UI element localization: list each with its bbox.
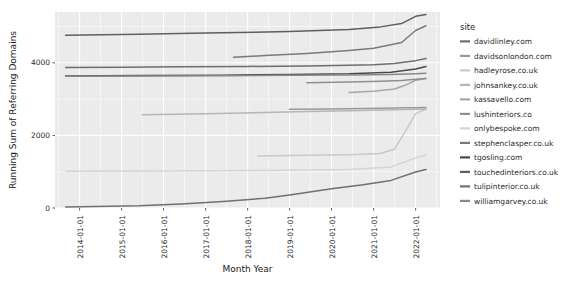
legend-label-touchedinteriors-co-uk: touchedinteriors.co.uk — [474, 168, 559, 177]
x-tick-label: 2021-01-01 — [370, 215, 379, 259]
legend-label-tulipinterior-co-uk: tulipinterior.co.uk — [474, 182, 540, 191]
x-tick-label: 2015-01-01 — [118, 215, 127, 259]
legend-label-tgosling-com: tgosling.com — [474, 153, 522, 162]
legend-label-kassavello-com: kassavello.com — [474, 95, 531, 104]
legend-item-davidlinley-com[interactable]: davidlinley.com — [460, 37, 532, 46]
legend-item-kassavello-com[interactable]: kassavello.com — [460, 95, 531, 104]
legend-label-onlybespoke-com: onlybespoke.com — [474, 124, 540, 133]
legend-label-johnsankey-co-uk: johnsankey.co.uk — [473, 81, 539, 90]
chart-root: 020004000Running Sum of Referring Domain… — [0, 0, 562, 282]
x-axis: 2014-01-012015-01-012016-01-012017-01-01… — [76, 208, 421, 259]
legend-item-lushinteriors-co[interactable]: lushinteriors.co — [460, 110, 532, 119]
legend-item-touchedinteriors-co-uk[interactable]: touchedinteriors.co.uk — [460, 168, 559, 177]
legend-label-williamgarvey-co-uk: williamgarvey.co.uk — [474, 197, 548, 206]
legend-item-hadleyrose-co-uk[interactable]: hadleyrose.co.uk — [460, 66, 538, 75]
legend-label-hadleyrose-co-uk: hadleyrose.co.uk — [474, 66, 538, 75]
legend-item-onlybespoke-com[interactable]: onlybespoke.com — [460, 124, 540, 133]
x-tick-label: 2017-01-01 — [202, 215, 211, 259]
y-axis-title: Running Sum of Referring Domains — [8, 31, 18, 189]
legend-item-tulipinterior-co-uk[interactable]: tulipinterior.co.uk — [460, 182, 540, 191]
legend-item-tgosling-com[interactable]: tgosling.com — [460, 153, 522, 162]
x-tick-label: 2020-01-01 — [328, 215, 337, 259]
x-axis-title: Month Year — [222, 264, 272, 274]
legend-item-johnsankey-co-uk[interactable]: johnsankey.co.uk — [460, 81, 539, 90]
legend-item-williamgarvey-co-uk[interactable]: williamgarvey.co.uk — [460, 197, 548, 206]
y-tick-label: 4000 — [31, 58, 50, 67]
legend-label-lushinteriors-co: lushinteriors.co — [474, 110, 532, 119]
legend-title: site — [460, 22, 475, 32]
legend-label-davidsonlondon-com: davidsonlondon.com — [474, 52, 552, 61]
y-axis: 020004000 — [31, 58, 55, 212]
x-tick-label: 2022-01-01 — [412, 215, 421, 259]
y-tick-label: 2000 — [31, 131, 50, 140]
legend-label-stephenclasper-co-uk: stephenclasper.co.uk — [474, 139, 554, 148]
legend: sitedavidlinley.comdavidsonlondon.comhad… — [460, 22, 559, 206]
y-tick-label: 0 — [45, 204, 50, 213]
x-tick-label: 2018-01-01 — [244, 215, 253, 259]
x-tick-label: 2016-01-01 — [160, 215, 169, 259]
legend-item-davidsonlondon-com[interactable]: davidsonlondon.com — [460, 52, 552, 61]
x-tick-label: 2019-01-01 — [286, 215, 295, 259]
line-chart: 020004000Running Sum of Referring Domain… — [0, 0, 562, 282]
x-tick-label: 2014-01-01 — [76, 215, 85, 259]
legend-item-stephenclasper-co-uk[interactable]: stephenclasper.co.uk — [460, 139, 554, 148]
legend-label-davidlinley-com: davidlinley.com — [474, 37, 532, 46]
